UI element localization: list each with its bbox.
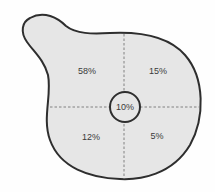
blob-outline [23,15,201,179]
label-bottom-left: 12% [82,132,100,142]
label-top-left: 58% [78,66,96,76]
quadrant-diagram: 58% 15% 10% 12% 5% [0,0,215,192]
label-center: 10% [116,102,134,112]
label-top-right: 15% [149,66,167,76]
label-bottom-right: 5% [150,131,163,141]
